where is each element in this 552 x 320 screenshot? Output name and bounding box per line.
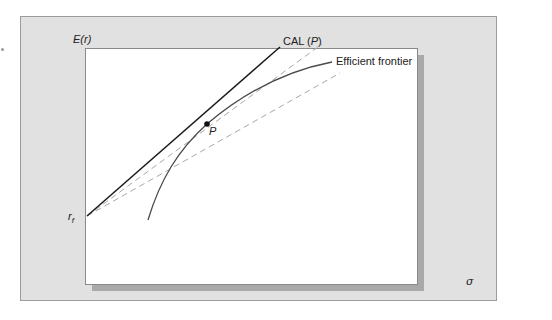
cal-line <box>87 47 280 216</box>
p-label: P <box>209 125 216 137</box>
efficient-frontier-label: Efficient frontier <box>336 55 412 67</box>
efficient-frontier-curve <box>148 62 332 220</box>
cal-label: CAL (P) <box>283 35 322 47</box>
y-axis-label-text: E(r) <box>73 33 91 45</box>
cal-label-text: CAL ( <box>283 35 311 47</box>
chart-lines <box>0 0 552 320</box>
cal-label-close: ) <box>318 35 322 47</box>
rf-label-sub: f <box>72 216 74 225</box>
cal-label-p: P <box>311 35 318 47</box>
rf-label: rf <box>68 210 74 225</box>
y-axis-label: E(r) <box>73 33 91 45</box>
inferior-cal-line-2 <box>87 73 340 216</box>
inferior-cal-line-1 <box>87 44 322 216</box>
x-axis-label: σ <box>466 275 474 288</box>
